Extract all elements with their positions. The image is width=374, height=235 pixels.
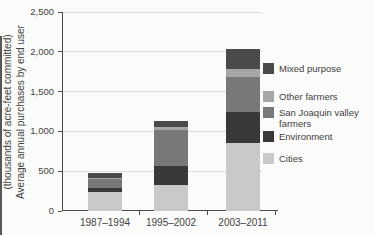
- y-tick-label-1,500: 1,500: [0, 87, 54, 97]
- legend-item-environment: Environment: [263, 131, 373, 142]
- bar-segment-2003–2011-mixed-purpose: [226, 49, 260, 68]
- legend-swatch-icon: [263, 107, 274, 118]
- x-boundary-tick-0: [139, 211, 140, 215]
- gridline-2,500: [63, 12, 262, 13]
- y-tick-mark-0: [58, 211, 62, 212]
- bar-segment-1995–2002-cities: [154, 185, 188, 211]
- legend-swatch-icon: [263, 91, 274, 102]
- y-tick-mark-1,000: [58, 131, 62, 132]
- legend-item-san-joaquin-valley-farmers: San Joaquin valley farmers: [263, 107, 373, 129]
- legend-swatch-icon: [263, 153, 274, 164]
- y-axis-line: [62, 12, 63, 211]
- x-tick-label-1987–1994: 1987–1994: [70, 217, 140, 228]
- legend-item-other-farmers: Other farmers: [263, 91, 373, 102]
- legend-label: Other farmers: [279, 91, 338, 102]
- y-tick-mark-1,500: [58, 91, 62, 92]
- bar-segment-2003–2011-san-joaquin-valley-farmers: [226, 77, 260, 111]
- y-tick-label-2,000: 2,000: [0, 47, 54, 57]
- x-boundary-tick-1: [207, 211, 208, 215]
- y-tick-label-500: 500: [0, 166, 54, 176]
- y-tick-label-0: 0: [0, 206, 54, 216]
- stacked-bar-chart-figure: (thousands of acre-feet committed) Avera…: [0, 0, 374, 235]
- legend-swatch-icon: [263, 63, 274, 74]
- legend-item-mixed-purpose: Mixed purpose: [263, 63, 373, 74]
- x-tick-label-1995–2002: 1995–2002: [136, 217, 206, 228]
- legend-swatch-icon: [263, 131, 274, 142]
- y-axis-label-line1: Average annual purchases by end user: [14, 2, 27, 222]
- x-tick-label-2003–2011: 2003–2011: [208, 217, 278, 228]
- bar-1995–2002: [154, 121, 188, 211]
- bar-2003–2011: [226, 49, 260, 211]
- bar-segment-1987–1994-cities: [88, 192, 122, 211]
- y-tick-label-2,500: 2,500: [0, 7, 54, 17]
- legend-label: Cities: [279, 153, 303, 164]
- bar-segment-1995–2002-san-joaquin-valley-farmers: [154, 130, 188, 165]
- legend-label: Environment: [279, 131, 332, 142]
- x-boundary-tick-2: [275, 211, 276, 215]
- bar-segment-2003–2011-cities: [226, 143, 260, 211]
- bar-segment-1987–1994-san-joaquin-valley-farmers: [88, 179, 122, 188]
- legend: Mixed purposeOther farmersSan Joaquin va…: [263, 63, 373, 164]
- y-axis-label-line2: (thousands of acre-feet committed): [1, 2, 14, 222]
- legend-item-cities: Cities: [263, 153, 373, 164]
- bar-segment-2003–2011-other-farmers: [226, 69, 260, 78]
- bar-segment-2003–2011-environment: [226, 112, 260, 144]
- legend-label: Mixed purpose: [279, 63, 341, 74]
- y-axis-label: (thousands of acre-feet committed) Avera…: [1, 2, 27, 222]
- legend-label: San Joaquin valley farmers: [279, 107, 367, 129]
- bar-segment-1995–2002-environment: [154, 166, 188, 185]
- y-tick-mark-500: [58, 171, 62, 172]
- bar-1987–1994: [88, 173, 122, 211]
- y-tick-mark-2,500: [58, 12, 62, 13]
- y-tick-mark-2,000: [58, 51, 62, 52]
- y-tick-label-1,000: 1,000: [0, 126, 54, 136]
